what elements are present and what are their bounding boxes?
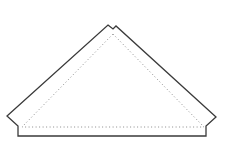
pattern-piece-diagram: [0, 0, 242, 153]
